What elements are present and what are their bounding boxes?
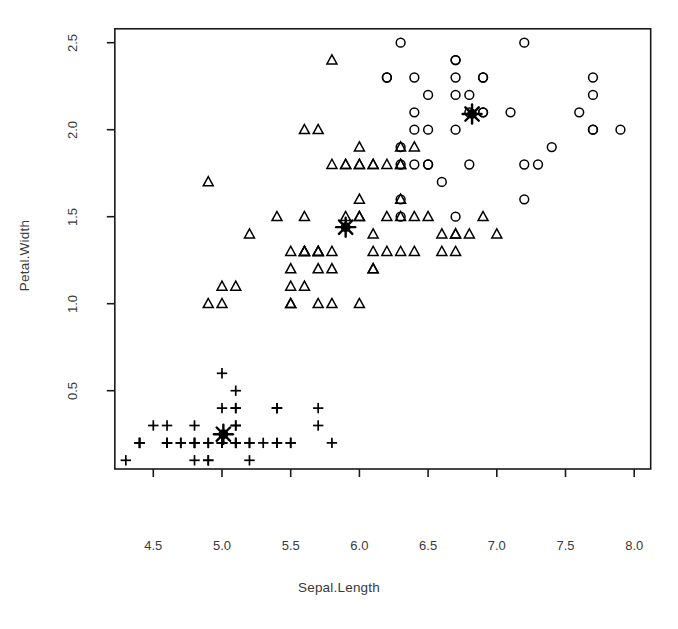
data-point-circle	[465, 91, 474, 100]
data-point-triangle	[354, 211, 364, 220]
data-point-triangle	[382, 211, 392, 220]
x-tick-label: 5.0	[213, 538, 231, 553]
data-point-triangle	[409, 246, 419, 255]
data-point-circle	[479, 73, 488, 82]
data-point-triangle	[437, 246, 447, 255]
data-point-triangle	[313, 264, 323, 273]
data-point-triangle	[327, 264, 337, 273]
data-point-triangle	[313, 124, 323, 133]
data-point-triangle	[368, 246, 378, 255]
data-point-circle	[382, 73, 391, 82]
y-tick-label: 2.5	[65, 34, 80, 52]
data-point-circle	[589, 125, 598, 134]
data-point-triangle	[382, 159, 392, 168]
data-point-triangle	[368, 264, 378, 273]
data-point-circle	[520, 160, 529, 169]
data-point-circle	[575, 108, 584, 117]
y-tick-label: 2.0	[65, 121, 80, 139]
data-point-triangle	[299, 211, 309, 220]
data-point-triangle	[286, 298, 296, 307]
data-point-triangle	[327, 55, 337, 64]
data-point-triangle	[272, 211, 282, 220]
data-point-triangle	[382, 246, 392, 255]
data-point-triangle	[286, 264, 296, 273]
data-point-triangle	[492, 229, 502, 238]
y-tick-label: 1.5	[65, 208, 80, 226]
data-point-triangle	[409, 142, 419, 151]
data-point-triangle	[203, 177, 213, 186]
scatter-plot: Sepal.Length Petal.Width 4.55.05.56.06.5…	[0, 0, 678, 629]
x-tick-label: 6.5	[419, 538, 437, 553]
data-point-triangle	[451, 229, 461, 238]
data-point-triangle	[437, 229, 447, 238]
data-point-circle	[424, 91, 433, 100]
x-tick-label: 7.0	[488, 538, 506, 553]
data-point-circle	[589, 91, 598, 100]
data-point-triangle	[286, 281, 296, 290]
data-point-circle	[616, 125, 625, 134]
data-point-triangle	[244, 229, 254, 238]
data-point-circle	[451, 212, 460, 221]
data-point-triangle	[354, 159, 364, 168]
y-axis-title: Petal.Width	[17, 186, 32, 326]
data-point-circle	[451, 73, 460, 82]
data-point-triangle	[327, 246, 337, 255]
data-point-circle	[479, 108, 488, 117]
data-point-circle	[451, 91, 460, 100]
data-point-circle	[547, 143, 556, 152]
data-point-triangle	[286, 246, 296, 255]
data-point-circle	[534, 160, 543, 169]
data-point-circle	[437, 178, 446, 187]
x-axis-title: Sepal.Length	[0, 580, 678, 595]
data-point-triangle	[423, 211, 433, 220]
data-point-circle	[520, 38, 529, 47]
plot-frame	[115, 29, 651, 469]
data-point-circle	[451, 125, 460, 134]
data-point-triangle	[464, 229, 474, 238]
data-point-triangle	[299, 246, 309, 255]
data-point-triangle	[313, 298, 323, 307]
x-tick-label: 5.5	[282, 538, 300, 553]
y-tick-label: 1.0	[65, 295, 80, 313]
data-point-circle	[424, 125, 433, 134]
x-tick-label: 8.0	[625, 538, 643, 553]
data-point-triangle	[368, 229, 378, 238]
data-point-circle	[589, 73, 598, 82]
data-point-triangle	[217, 298, 227, 307]
data-point-triangle	[327, 298, 337, 307]
data-point-circle	[465, 160, 474, 169]
data-point-triangle	[341, 159, 351, 168]
plot-canvas	[0, 0, 678, 629]
data-point-triangle	[368, 159, 378, 168]
data-point-circle	[520, 195, 529, 204]
data-point-circle	[410, 73, 419, 82]
y-tick-label: 0.5	[65, 382, 80, 400]
data-point-circle	[410, 160, 419, 169]
data-point-circle	[410, 108, 419, 117]
data-point-triangle	[217, 281, 227, 290]
data-point-circle	[506, 108, 515, 117]
data-point-triangle	[231, 281, 241, 290]
data-point-triangle	[299, 124, 309, 133]
data-point-triangle	[409, 211, 419, 220]
data-point-circle	[424, 160, 433, 169]
x-tick-label: 6.0	[350, 538, 368, 553]
data-point-triangle	[327, 159, 337, 168]
data-point-triangle	[396, 246, 406, 255]
data-point-circle	[451, 56, 460, 65]
x-tick-label: 4.5	[144, 538, 162, 553]
data-point-triangle	[354, 298, 364, 307]
data-point-triangle	[451, 246, 461, 255]
data-point-circle	[396, 38, 405, 47]
x-tick-label: 7.5	[556, 538, 574, 553]
data-point-triangle	[478, 211, 488, 220]
data-point-triangle	[313, 246, 323, 255]
data-point-triangle	[299, 281, 309, 290]
data-point-triangle	[354, 142, 364, 151]
data-point-triangle	[354, 194, 364, 203]
data-point-circle	[410, 125, 419, 134]
data-point-triangle	[203, 298, 213, 307]
